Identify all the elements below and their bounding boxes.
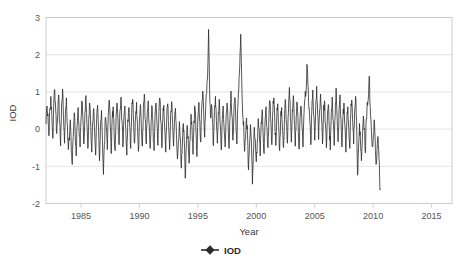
- legend-label-iod: IOD: [224, 245, 241, 256]
- iod-time-series-chart: -2-10123 1985199019952000200520102015 IO…: [0, 0, 465, 266]
- y-axis-title: IOD: [7, 104, 18, 121]
- x-tick-label-1990: 1990: [129, 211, 149, 221]
- y-tick-label-0: 0: [35, 124, 40, 134]
- y-tick-label--1: -1: [32, 162, 40, 172]
- y-tick-label--2: -2: [32, 199, 40, 209]
- x-tick-label-2005: 2005: [305, 211, 325, 221]
- y-tick-label-2: 2: [35, 50, 40, 60]
- x-tick-label-2015: 2015: [422, 211, 442, 221]
- x-axis-title: Year: [239, 226, 258, 237]
- y-tick-label-1: 1: [35, 87, 40, 97]
- x-tick-label-2000: 2000: [246, 211, 266, 221]
- chart-canvas: -2-10123 1985199019952000200520102015 IO…: [0, 0, 465, 266]
- x-tick-label-1985: 1985: [71, 211, 91, 221]
- x-tick-label-2010: 2010: [363, 211, 383, 221]
- y-tick-label-3: 3: [35, 13, 40, 23]
- x-tick-label-1995: 1995: [188, 211, 208, 221]
